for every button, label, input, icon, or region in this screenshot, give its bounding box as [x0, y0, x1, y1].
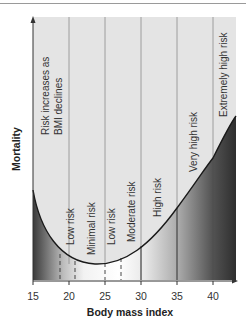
zone-label-low-risk-2: Low risk — [106, 208, 117, 245]
zone-label-extremely-high-risk: Extremely high risk — [218, 33, 229, 117]
x-tick-label: 15 — [21, 290, 45, 302]
zone-label-declines-1: Risk increases as — [40, 57, 51, 135]
x-tick-label: 40 — [201, 290, 225, 302]
zone-label-moderate-risk: Moderate risk — [126, 181, 137, 242]
x-tick-label: 35 — [165, 290, 189, 302]
y-axis-label: Mortality — [10, 124, 24, 174]
zone-label-minimal-risk: Minimal risk — [86, 202, 97, 255]
x-ticks — [33, 281, 213, 285]
zone-label-declines-2: BMI declines — [53, 78, 64, 135]
zone-label-very-high-risk: Very high risk — [188, 112, 199, 172]
x-tick-label: 30 — [129, 290, 153, 302]
chart-canvas — [0, 0, 246, 333]
x-axis-label: Body mass index — [60, 306, 200, 318]
x-tick-label: 20 — [57, 290, 81, 302]
x-tick-label: 25 — [93, 290, 117, 302]
zone-label-low-risk-1: Low risk — [65, 208, 76, 245]
zone-label-high-risk: High risk — [152, 178, 163, 217]
